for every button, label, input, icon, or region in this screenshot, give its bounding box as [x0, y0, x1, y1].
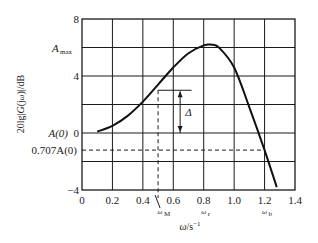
- a707-label: 0.707A(0): [31, 144, 77, 157]
- delta-label: Δ: [184, 106, 191, 118]
- y-tick-label: −4: [67, 184, 79, 196]
- x-tick-label: 0.6: [166, 194, 180, 206]
- x-tick-label: 0.2: [106, 194, 120, 206]
- x-tick-label: 0: [79, 194, 85, 206]
- tick-labels: 00.20.40.60.81.01.21.4840−4AmaxA(0)0.707…: [31, 13, 302, 218]
- y-tick-label: 0: [74, 127, 80, 139]
- amax-label: A: [51, 42, 59, 54]
- omega-M-label: ω: [158, 208, 163, 216]
- omega-b-label: ω: [262, 208, 267, 216]
- omega-r-label: ω: [201, 208, 206, 216]
- x-tick-label: 1.2: [258, 194, 272, 206]
- x-tick-label: 1.4: [288, 194, 302, 206]
- omega-M-sub: M: [164, 210, 171, 218]
- amax-sub: max: [60, 48, 73, 56]
- y-tick-label: 4: [74, 70, 80, 82]
- a0-label: A(0): [47, 127, 68, 140]
- x-tick-label: 0.8: [197, 194, 211, 206]
- x-tick-label: 0.4: [136, 194, 150, 206]
- y-axis-label: 20lg|G(jω)|/dB: [15, 74, 27, 133]
- omega-r-sub: r: [208, 210, 211, 218]
- y-tick-label: 8: [74, 13, 80, 25]
- x-tick-label: 1.0: [227, 194, 241, 206]
- delta-arrow-down-icon: [178, 126, 183, 132]
- grid: [82, 19, 295, 190]
- delta-arrow-up-icon: [178, 91, 183, 97]
- x-axis-label: ω/s−1: [179, 220, 201, 232]
- omega-b-sub: b: [269, 210, 273, 218]
- frequency-response-chart: Δ 00.20.40.60.81.01.21.4840−4AmaxA(0)0.7…: [0, 0, 318, 243]
